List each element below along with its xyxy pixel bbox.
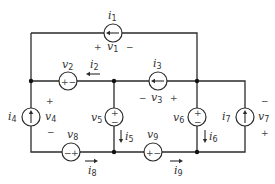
label-i3: i3 <box>153 57 162 71</box>
label-v9: v9 <box>147 128 158 142</box>
label-i9: i9 <box>174 164 183 178</box>
v9-plus-sign: + <box>146 148 154 158</box>
label-v8: v8 <box>67 128 78 142</box>
v6-minus-sign: − <box>194 117 202 127</box>
v3-minus-sign: − <box>139 93 147 103</box>
node-right-top <box>195 79 199 83</box>
voltage-source-v6: + − v6 i6 <box>173 108 218 144</box>
label-i8: i8 <box>88 164 97 178</box>
v9-minus-sign: − <box>154 148 162 158</box>
v4-minus-sign: − <box>47 127 55 137</box>
current-source-i7: i7 − v7 + <box>222 96 269 138</box>
label-i2: i2 <box>90 58 99 72</box>
label-i4: i4 <box>8 110 17 124</box>
v3-plus-sign: + <box>170 93 178 103</box>
v7-minus-sign: − <box>261 96 269 106</box>
current-source-i1: i1 + v1 − <box>94 9 134 54</box>
label-v7: v7 <box>258 110 269 124</box>
arrow-down-icon <box>119 139 123 143</box>
arrow-right-icon <box>179 159 183 163</box>
v1-minus-sign: − <box>126 42 134 52</box>
arrow-left-icon <box>86 72 90 76</box>
label-i6: i6 <box>209 130 218 144</box>
label-v5: v5 <box>91 111 102 125</box>
voltage-source-v8: − + v8 i8 <box>62 128 98 178</box>
node-center-top <box>112 79 116 83</box>
voltage-source-v2: + − v2 i2 <box>59 58 100 90</box>
label-i1: i1 <box>108 9 117 23</box>
label-v6: v6 <box>173 111 184 125</box>
circuit-diagram: i1 + v1 − + − v2 i2 i3 − v3 + i4 + v4 − … <box>0 0 275 184</box>
label-i5: i5 <box>125 130 134 144</box>
voltage-source-v5: + − v5 i5 <box>91 108 134 144</box>
label-v3: v3 <box>151 91 162 105</box>
label-v2: v2 <box>62 58 73 72</box>
node-left <box>29 79 33 83</box>
v7-plus-sign: + <box>261 128 269 138</box>
node-right-bottom <box>195 150 199 154</box>
arrow-down-icon <box>203 139 207 143</box>
label-i7: i7 <box>222 110 231 124</box>
arrow-right-icon <box>94 159 98 163</box>
v5-minus-sign: − <box>111 117 119 127</box>
v1-plus-sign: + <box>94 42 102 52</box>
label-v4: v4 <box>45 110 56 124</box>
v4-plus-sign: + <box>46 96 54 106</box>
v2-plus-sign: + <box>61 77 69 87</box>
v2-minus-sign: − <box>69 77 77 87</box>
node-center-bottom <box>112 150 116 154</box>
v8-plus-sign: + <box>71 148 79 158</box>
voltage-source-v9: + − v9 i9 <box>144 128 183 178</box>
label-v1: v1 <box>107 40 118 54</box>
current-source-i4: i4 + v4 − <box>8 96 56 137</box>
